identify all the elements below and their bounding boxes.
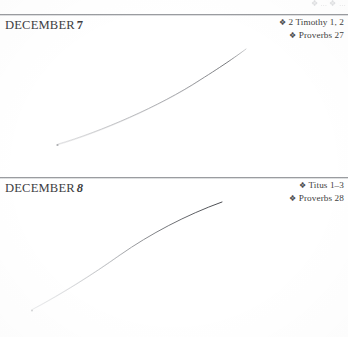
scripture-reference: Proverbs 28 [299, 193, 344, 203]
page-title: DECEMBER7 [5, 18, 83, 33]
scripture-reference: 2 Timothy 1, 2 [288, 17, 344, 27]
day-number: 8 [75, 181, 83, 195]
ghost-text-above: ❖ ... ❖ ... [186, 0, 346, 8]
entry-header: DECEMBER7 ❖2 Timothy 1, 2 ❖Proverbs 27 [0, 14, 348, 50]
reading-entry-december-8: DECEMBER8 ❖Titus 1–3 ❖Proverbs 28 [0, 177, 348, 337]
month-label: DECEMBER [5, 181, 75, 195]
list-item[interactable]: ❖Titus 1–3 [124, 179, 344, 192]
list-item[interactable]: ❖Proverbs 27 [124, 29, 344, 42]
floral-diamond-bullet-icon: ❖ [279, 17, 286, 29]
scripture-reference: Proverbs 27 [299, 30, 344, 40]
reading-list: ❖2 Timothy 1, 2 ❖Proverbs 27 [124, 16, 344, 43]
scripture-reference: Titus 1–3 [308, 180, 344, 190]
entry-header: DECEMBER8 ❖Titus 1–3 ❖Proverbs 28 [0, 177, 348, 213]
reading-list: ❖Titus 1–3 ❖Proverbs 28 [124, 179, 344, 206]
floral-diamond-bullet-icon: ❖ [289, 30, 296, 42]
floral-diamond-bullet-icon: ❖ [299, 180, 306, 192]
month-label: DECEMBER [5, 18, 75, 32]
list-item[interactable]: ❖Proverbs 28 [124, 192, 344, 205]
day-number: 7 [75, 18, 83, 32]
page-title: DECEMBER8 [5, 181, 83, 196]
scanned-page: ❖ ... ❖ ... DECEMBER7 ❖2 Timothy 1, 2 ❖P… [0, 0, 348, 337]
list-item[interactable]: ❖2 Timothy 1, 2 [124, 16, 344, 29]
floral-diamond-bullet-icon: ❖ [289, 193, 296, 205]
reading-entry-december-7: DECEMBER7 ❖2 Timothy 1, 2 ❖Proverbs 27 [0, 14, 348, 177]
